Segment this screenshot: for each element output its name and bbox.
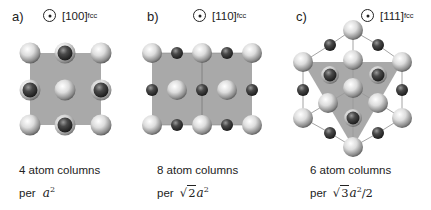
panel-b-label: b): [147, 9, 159, 24]
panel-b-lattice: [142, 43, 262, 135]
area-expression: per √2a2: [157, 180, 238, 203]
panel-c-label: c): [296, 9, 307, 24]
panel-b-caption: 8 atom columns per √2a2: [157, 161, 238, 203]
panel-c-direction: [111]fcc: [361, 9, 413, 22]
panel-b-direction: [110]fcc: [193, 9, 246, 22]
out-of-plane-dot-icon: [43, 9, 56, 22]
direction-index: [100]: [62, 10, 88, 22]
direction-subscript: fcc: [88, 11, 98, 20]
area-expression: per √3a2/2: [310, 180, 391, 203]
panel-c-caption: 6 atom columns per √3a2/2: [310, 161, 391, 203]
atom-column-count: 8 atom columns: [157, 161, 238, 180]
out-of-plane-dot-icon: [361, 9, 374, 22]
direction-subscript: fcc: [404, 11, 414, 20]
direction-index: [110]: [212, 10, 237, 22]
panel-a-direction: [100]fcc: [43, 9, 97, 22]
direction-index: [111]: [380, 10, 404, 22]
direction-subscript: fcc: [237, 11, 247, 20]
out-of-plane-dot-icon: [193, 9, 206, 22]
atom-column-count: 6 atom columns: [310, 161, 391, 180]
panel-a-lattice: [20, 43, 112, 136]
panel-a-label: a): [12, 9, 24, 24]
area-expression: per a2: [19, 180, 100, 203]
panel-a-caption: 4 atom columns per a2: [19, 161, 100, 203]
panel-c-lattice: [293, 20, 412, 157]
atom-column-count: 4 atom columns: [19, 161, 100, 180]
